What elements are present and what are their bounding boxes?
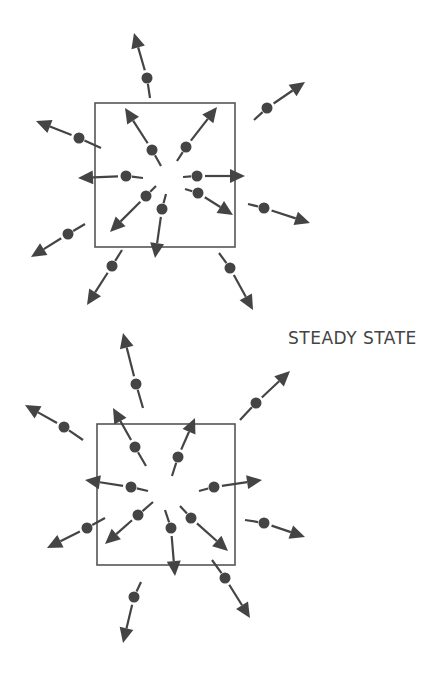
particle-dot [225, 263, 236, 274]
particle-inner-se [185, 188, 233, 216]
arrowhead-icon [31, 243, 47, 257]
arrowhead-icon [202, 107, 217, 123]
particle-outer-s [87, 250, 122, 305]
arrow-shaft [121, 202, 141, 222]
trail-dash [240, 407, 252, 420]
arrow-shaft [50, 127, 72, 136]
particle-inner-s [165, 510, 181, 576]
particle-dot [166, 523, 177, 534]
trail-dash [183, 176, 191, 177]
particle-dot [192, 171, 203, 182]
arrow-shaft [262, 381, 279, 397]
arrow-shaft [172, 536, 174, 561]
particle-dot [82, 523, 93, 534]
particle-inner-sw [105, 502, 153, 544]
arrowhead-icon [167, 560, 181, 576]
trail-dash [84, 140, 101, 148]
arrow-shaft [229, 585, 242, 605]
trail-dash [115, 250, 122, 261]
trail-dash [92, 518, 105, 525]
particle-inner-w [78, 170, 143, 184]
arrowhead-icon [236, 602, 250, 618]
particle-dot [142, 73, 153, 84]
particle-dot [251, 398, 262, 409]
trail-dash [138, 390, 143, 408]
trail-dash [155, 155, 161, 166]
arrow-shaft [60, 532, 79, 542]
particle-inner-nw [125, 108, 161, 166]
arrow-shaft [126, 605, 132, 629]
particle-dot [59, 422, 70, 433]
particle-inner-ne [177, 107, 217, 161]
arrowhead-icon [125, 108, 139, 124]
trail-dash [245, 520, 258, 522]
arrow-shaft [234, 275, 246, 297]
arrow-shaft [138, 47, 145, 70]
arrow-shaft [93, 176, 118, 177]
particle-dot [259, 203, 270, 214]
trail-dash [212, 560, 221, 573]
arrowhead-icon [85, 475, 101, 489]
particle-outer-sw [31, 224, 85, 257]
arrowhead-icon [87, 289, 101, 305]
arrowhead-icon [150, 242, 164, 258]
steady-state-label: STEADY STATE [288, 328, 417, 348]
arrow-shaft [157, 217, 161, 243]
particle-outer-w [25, 405, 83, 440]
particle-dot [121, 171, 132, 182]
particle-dot [74, 133, 85, 144]
arrow-shaft [44, 238, 61, 249]
particle-dot [186, 513, 197, 524]
arrow-shaft [38, 412, 57, 423]
arrowhead-icon [294, 212, 310, 225]
arrow-shaft [205, 197, 221, 207]
arrowhead-icon [120, 627, 134, 643]
arrowhead-icon [78, 170, 93, 184]
arrow-shaft [197, 523, 217, 541]
particle-dot [181, 142, 192, 153]
trail-dash [177, 152, 183, 161]
particle-dot [157, 204, 168, 215]
trail-dash [180, 506, 187, 514]
arrowhead-icon [217, 201, 233, 215]
trail-dash [219, 253, 226, 263]
particle-dot [63, 229, 74, 240]
trail-dash [137, 582, 141, 592]
particle-inner-s [150, 194, 167, 258]
particle-inner-e [199, 475, 262, 492]
particle-inner-sw [110, 186, 156, 232]
trail-dash [148, 84, 150, 98]
particle-outer-se [212, 560, 250, 618]
particle-dot [131, 379, 142, 390]
arrow-shaft [127, 348, 134, 377]
arrowhead-icon [289, 526, 305, 539]
arrowhead-icon [131, 33, 144, 49]
particle-inner-se [180, 506, 228, 551]
particle-dot [209, 482, 220, 493]
arrow-shaft [95, 273, 108, 293]
trail-dash [172, 463, 176, 476]
particle-dot [126, 482, 137, 493]
arrow-shaft [181, 432, 189, 450]
particle-dot [220, 573, 231, 584]
particle-dot [129, 592, 140, 603]
particle-dot [193, 188, 204, 199]
arrow-shaft [272, 526, 291, 533]
arrow-shaft [191, 119, 208, 141]
particle-inner-ne [172, 418, 195, 476]
particle-inner-nw [113, 408, 146, 466]
particle-outer-e [245, 518, 305, 539]
trail-dash [248, 204, 258, 207]
particle-dot [141, 191, 152, 202]
arrow-shaft [116, 520, 132, 534]
trail-dash [69, 430, 83, 440]
trail-dash [254, 112, 263, 120]
particle-dot [262, 103, 273, 114]
top-diagram [31, 33, 310, 310]
particle-dot [107, 261, 118, 272]
trail-dash [138, 452, 146, 466]
arrow-shaft [133, 121, 148, 144]
arrowhead-icon [289, 82, 305, 96]
particle-outer-e [248, 203, 310, 226]
particle-dot [130, 442, 141, 453]
